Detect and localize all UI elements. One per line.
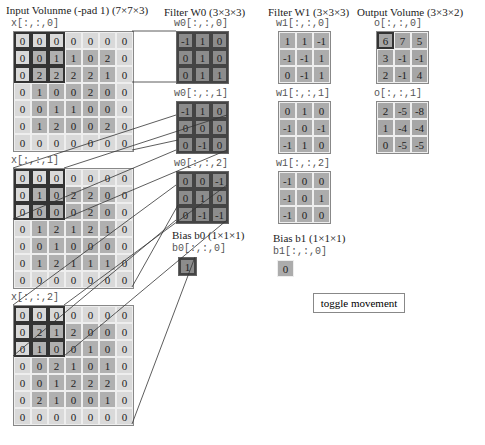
input-cell: 0: [116, 408, 133, 425]
input-slice-grid: 0000000010220000002000121210001000001211…: [13, 168, 134, 289]
output-cell: -4: [411, 119, 428, 136]
toggle-movement-button[interactable]: toggle movement: [313, 293, 405, 313]
input-cell: 0: [14, 391, 31, 408]
w0-slice-grid: 00-10100-1-1: [176, 171, 229, 224]
w0-cell: 0: [177, 189, 194, 206]
input-cell: 0: [14, 254, 31, 271]
input-cell: 0: [31, 203, 48, 220]
w0-cell: 1: [194, 102, 211, 119]
input-cell: 0: [65, 340, 82, 357]
input-cell: 0: [48, 186, 65, 203]
input-cell: 0: [99, 306, 116, 323]
input-cell: 0: [14, 374, 31, 391]
bias-b0-grid: 1: [178, 257, 197, 276]
input-cell: 0: [31, 306, 48, 323]
input-cell: 0: [65, 117, 82, 134]
w0-cell: 0: [211, 32, 228, 49]
input-cell: 0: [31, 237, 48, 254]
input-cell: 0: [14, 49, 31, 66]
w0-cell: 1: [194, 49, 211, 66]
input-slice-label: x[:,:,2]: [11, 292, 59, 303]
input-cell: 0: [116, 323, 133, 340]
w1-cell: 0: [313, 172, 330, 189]
input-cell: 0: [116, 83, 133, 100]
input-cell: 0: [48, 134, 65, 151]
output-cell: 2: [377, 66, 394, 83]
input-cell: 0: [116, 186, 133, 203]
w1-cell: 0: [279, 66, 296, 83]
input-cell: 0: [31, 32, 48, 49]
input-cell: 0: [82, 169, 99, 186]
input-cell: 0: [14, 203, 31, 220]
w1-slice-grid: 11-1-1-110-11: [278, 31, 331, 84]
output-cell: -5: [394, 102, 411, 119]
filter-w1-title: Filter W1 (3×3×3): [268, 6, 349, 18]
input-cell: 0: [116, 374, 133, 391]
input-cell: 0: [99, 32, 116, 49]
output-cell: -4: [394, 119, 411, 136]
input-cell: 1: [99, 391, 116, 408]
w1-cell: 1: [296, 32, 313, 49]
input-slice-grid: 0000000001102002222100100200001100001200…: [13, 31, 134, 152]
w1-cell: -1: [279, 172, 296, 189]
input-cell: 0: [14, 323, 31, 340]
input-cell: 1: [48, 374, 65, 391]
input-cell: 0: [116, 306, 133, 323]
w0-cell: 0: [211, 136, 228, 153]
w1-slice-grid: 010-10-1-110: [278, 101, 331, 154]
input-cell: 1: [48, 49, 65, 66]
input-cell: 0: [99, 83, 116, 100]
input-cell: 2: [82, 220, 99, 237]
output-cell: 0: [377, 136, 394, 153]
w0-cell: 1: [194, 32, 211, 49]
input-cell: 0: [99, 186, 116, 203]
filter-w0-title: Filter W0 (3×3×3): [164, 6, 245, 18]
input-cell: 0: [82, 32, 99, 49]
input-cell: 2: [48, 117, 65, 134]
input-cell: 0: [99, 169, 116, 186]
w1-cell: 0: [296, 189, 313, 206]
w0-slice-label: w0[:,:,1]: [174, 88, 228, 99]
input-cell: 0: [116, 66, 133, 83]
w1-cell: -1: [313, 32, 330, 49]
w0-slice-label: w0[:,:,2]: [174, 158, 228, 169]
input-cell: 0: [82, 134, 99, 151]
w1-cell: -1: [279, 189, 296, 206]
input-cell: 0: [99, 408, 116, 425]
input-cell: 0: [82, 323, 99, 340]
w0-cell: 0: [177, 49, 194, 66]
w0-cell: -1: [177, 32, 194, 49]
input-cell: 0: [14, 134, 31, 151]
input-cell: 0: [116, 340, 133, 357]
input-cell: 0: [116, 203, 133, 220]
input-cell: 1: [48, 100, 65, 117]
input-slice-label: x[:,:,0]: [11, 18, 59, 29]
output-cell: 6: [377, 32, 394, 49]
output-slice-label: o[:,:,0]: [374, 18, 422, 29]
input-cell: 0: [14, 117, 31, 134]
input-cell: 0: [82, 49, 99, 66]
input-cell: 0: [116, 237, 133, 254]
input-cell: 0: [48, 271, 65, 288]
input-cell: 0: [116, 271, 133, 288]
input-cell: 2: [31, 323, 48, 340]
output-cell: -5: [394, 136, 411, 153]
input-cell: 0: [14, 220, 31, 237]
w0-slice-grid: -1100000-10: [176, 101, 229, 154]
input-cell: 0: [31, 49, 48, 66]
w1-cell: -1: [279, 206, 296, 223]
input-cell: 0: [31, 408, 48, 425]
bias-b0-title: Bias b0 (1×1×1): [172, 229, 244, 241]
input-cell: 2: [48, 254, 65, 271]
input-cell: 0: [116, 49, 133, 66]
input-cell: 2: [48, 220, 65, 237]
w1-cell: 1: [279, 32, 296, 49]
w1-slice-label: w1[:,:,0]: [276, 18, 330, 29]
input-cell: 0: [116, 357, 133, 374]
input-cell: 0: [82, 408, 99, 425]
w0-cell: 0: [211, 119, 228, 136]
input-cell: 0: [14, 66, 31, 83]
input-cell: 2: [99, 49, 116, 66]
input-cell: 0: [82, 237, 99, 254]
input-slice-grid: 0000000021200001001000021010001222002100…: [13, 305, 134, 426]
